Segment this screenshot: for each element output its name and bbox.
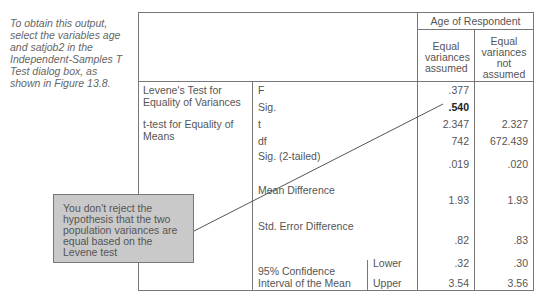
- callout-leader-line: [0, 0, 551, 305]
